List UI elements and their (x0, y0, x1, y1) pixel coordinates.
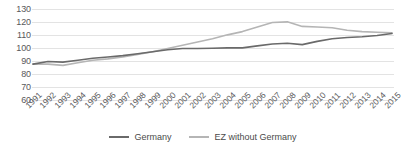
line-chart: 13012011010090807060 1991199219931994199… (0, 0, 406, 153)
plot-area (0, 0, 406, 153)
chart-legend: GermanyEZ without Germany (0, 132, 406, 142)
gridlines (32, 10, 394, 101)
legend-swatch (189, 136, 209, 138)
legend-item[interactable]: Germany (109, 132, 171, 142)
data-series-group (33, 22, 392, 66)
legend-item[interactable]: EZ without Germany (189, 132, 296, 142)
legend-label: EZ without Germany (214, 132, 296, 142)
legend-swatch (109, 136, 129, 138)
legend-label: Germany (134, 132, 171, 142)
